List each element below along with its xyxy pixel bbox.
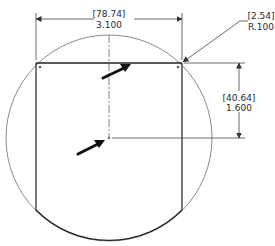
- corner-point-right: [177, 66, 179, 68]
- height-dimension-imperial: 1.600: [226, 103, 252, 113]
- radius-leader-line: [183, 21, 240, 62]
- technical-drawing: [78.74] 3.100 [40.64] 1.600 [2.54] R.100: [0, 0, 275, 246]
- radius-dimension-metric: [2.54]: [247, 11, 274, 21]
- width-dimension-metric: [78.74]: [93, 9, 126, 19]
- callout-arrow-center: [78, 140, 105, 154]
- width-dimension-imperial: 3.100: [96, 20, 122, 30]
- corner-point-left: [39, 66, 41, 68]
- center-point: [108, 137, 111, 140]
- callout-arrow-top: [103, 64, 131, 78]
- height-dimension-metric: [40.64]: [223, 93, 256, 103]
- profile-bottom-arc: [36, 210, 182, 240]
- radius-dimension-imperial: R.100: [248, 22, 274, 32]
